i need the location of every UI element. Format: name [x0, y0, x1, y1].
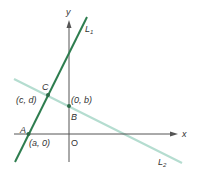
y-axis-arrow-icon — [67, 20, 72, 28]
x-axis-arrow-icon — [170, 132, 178, 137]
point-c-coords: (c, d) — [16, 95, 37, 105]
point-c-label: C — [42, 82, 49, 92]
point-a-coords: (a, 0) — [29, 138, 50, 148]
line-l2-label: L2 — [158, 157, 167, 168]
y-axis-label: y — [65, 7, 71, 17]
line-l2 — [14, 79, 182, 163]
point-a-marker — [27, 132, 31, 136]
line-l1-label: L1 — [85, 24, 93, 35]
point-b-label: B — [71, 112, 77, 122]
x-axis-label: x — [181, 129, 187, 139]
diagram-canvas: y x O L1 L2 A (a, 0) B (0, b) C (c, d) — [0, 0, 197, 176]
point-c-marker — [46, 93, 50, 97]
point-a-label: A — [19, 125, 26, 135]
origin-label: O — [71, 138, 78, 148]
point-b-coords: (0, b) — [71, 95, 92, 105]
coordinate-diagram: y x O L1 L2 A (a, 0) B (0, b) C (c, d) — [0, 0, 197, 176]
